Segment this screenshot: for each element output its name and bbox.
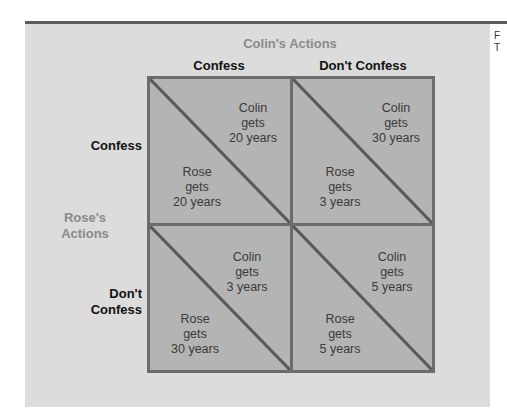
payoff-cell-dont-confess-confess: Colingets3 years Rosegets30 years bbox=[147, 223, 293, 373]
payoff-cell-dont-confess-dont-confess: Colingets5 years Rosegets5 years bbox=[290, 223, 435, 373]
rose-payoff: Rosegets30 years bbox=[160, 312, 230, 357]
rose-payoff: Rosegets5 years bbox=[305, 312, 375, 357]
colin-payoff: Colingets30 years bbox=[361, 101, 431, 146]
rose-payoff: Rosegets3 years bbox=[305, 165, 375, 210]
colin-payoff: Colingets3 years bbox=[212, 250, 282, 295]
colin-actions-title: Colin's Actions bbox=[220, 36, 360, 51]
column-header-confess: Confess bbox=[147, 58, 291, 73]
colin-payoff: Colingets20 years bbox=[218, 101, 288, 146]
payoff-matrix: Colingets20 years Rosegets20 years Colin… bbox=[147, 76, 435, 373]
side-letter: F bbox=[494, 30, 500, 42]
row-header-confess: Confess bbox=[60, 138, 142, 154]
payoff-cell-confess-confess: Colingets20 years Rosegets20 years bbox=[147, 76, 293, 226]
rose-payoff: Rosegets20 years bbox=[162, 165, 232, 210]
side-letter: T bbox=[494, 42, 500, 54]
rose-actions-title: Rose's Actions bbox=[45, 210, 125, 242]
row-header-dont-confess: Don't Confess bbox=[60, 286, 142, 318]
payoff-cell-confess-dont-confess: Colingets30 years Rosegets3 years bbox=[290, 76, 435, 226]
column-header-dont-confess: Don't Confess bbox=[291, 58, 435, 73]
colin-payoff: Colingets5 years bbox=[357, 250, 427, 295]
clipped-side-text: F T bbox=[494, 30, 500, 54]
